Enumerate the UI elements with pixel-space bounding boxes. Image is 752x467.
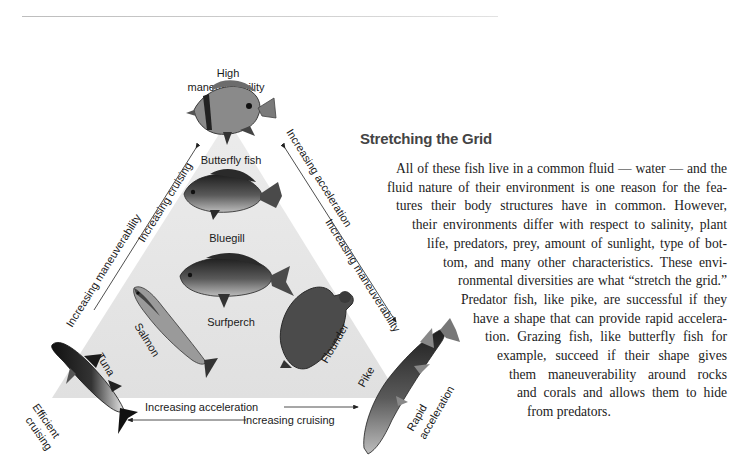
fish-label-butterfly: Butterfly fish [201,154,262,166]
body-line: ronmental diversities are what “stretch … [458,272,727,291]
body-line: tures their body structures have in comm… [396,197,727,216]
vertex-top-line1: High [217,67,240,79]
body-line: from predators. [527,403,611,422]
body-line: life, predators, prey, amount of sunligh… [427,235,727,254]
body-line: their environments differ with respect t… [412,216,727,235]
body-line: tom, and many other characteristics. The… [443,254,727,273]
body-line: them maneuverability around rocks [509,366,727,385]
body-line: Predator fish, like pike, are successful… [461,291,727,310]
fish-label-surfperch: Surfperch [207,316,255,328]
edge-bottom-upper-label: Increasing acceleration [145,401,258,413]
body-line: fluid nature of their environment is one… [387,179,727,198]
fish-label-bluegill: Bluegill [209,232,244,244]
body-line: and corals and allows them to hide [517,384,727,403]
body-line: All of these fish live in a common fluid… [396,160,727,179]
body-line: have a shape that can provide rapid acce… [473,310,727,329]
article-heading: Stretching the Grid [360,130,492,147]
body-line: example, succeed if their shape gives [497,347,727,366]
edge-bottom-lower-label: Increasing cruising [243,414,335,426]
edge-right-outer-label: Increasing acceleration [284,127,354,229]
body-line: tion. Grazing fish, like butterfly fish … [485,328,727,347]
